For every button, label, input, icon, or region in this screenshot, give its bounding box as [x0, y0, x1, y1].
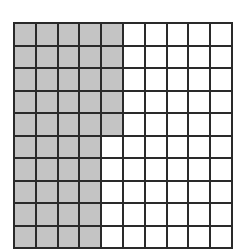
grid-cell-shaded [80, 159, 102, 182]
grid-cell-shaded [102, 24, 124, 47]
grid-cell-shaded [37, 159, 59, 182]
grid-cell-unshaded [124, 227, 146, 250]
grid-cell-shaded [80, 182, 102, 205]
grid-cell-unshaded [124, 159, 146, 182]
grid-cell-unshaded [168, 204, 190, 227]
grid-cell-shaded [80, 24, 102, 47]
grid-cell-shaded [59, 24, 81, 47]
grid-cell-unshaded [168, 137, 190, 160]
grid-cell-shaded [37, 204, 59, 227]
grid-cell-unshaded [146, 159, 168, 182]
grid-cell-shaded [37, 24, 59, 47]
grid-cell-unshaded [189, 182, 211, 205]
grid-cell-unshaded [189, 204, 211, 227]
grid-cell-unshaded [168, 182, 190, 205]
grid-cell-shaded [15, 182, 37, 205]
grid-cell-shaded [80, 204, 102, 227]
grid-cell-unshaded [168, 69, 190, 92]
grid-cell-shaded [15, 69, 37, 92]
grid-cell-shaded [15, 92, 37, 115]
grid-cell-unshaded [102, 159, 124, 182]
grid-cell-shaded [59, 227, 81, 250]
grid-cell-unshaded [146, 92, 168, 115]
grid-cell-shaded [102, 114, 124, 137]
grid-cell-unshaded [124, 24, 146, 47]
grid-cell-shaded [37, 137, 59, 160]
grid-cell-unshaded [146, 227, 168, 250]
grid-cell-unshaded [189, 227, 211, 250]
grid-cell-unshaded [124, 204, 146, 227]
grid-cell-unshaded [211, 182, 233, 205]
grid-cell-unshaded [189, 159, 211, 182]
grid-cell-unshaded [146, 24, 168, 47]
grid-cell-unshaded [146, 204, 168, 227]
grid-cell-unshaded [211, 204, 233, 227]
grid-cell-unshaded [168, 227, 190, 250]
grid-cell-unshaded [124, 92, 146, 115]
grid-cell-shaded [15, 114, 37, 137]
grid-cell-shaded [102, 92, 124, 115]
grid-cell-unshaded [168, 24, 190, 47]
grid-cell-unshaded [168, 114, 190, 137]
grid-cell-shaded [80, 114, 102, 137]
grid-cell-unshaded [211, 114, 233, 137]
grid-cell-shaded [59, 137, 81, 160]
grid-cell-unshaded [124, 114, 146, 137]
grid-cell-shaded [37, 114, 59, 137]
grid-cell-unshaded [189, 114, 211, 137]
grid-cell-unshaded [211, 69, 233, 92]
grid-cell-unshaded [146, 69, 168, 92]
grid-cell-unshaded [146, 114, 168, 137]
grid-cell-shaded [59, 114, 81, 137]
grid-cell-shaded [59, 204, 81, 227]
grid-cell-shaded [102, 47, 124, 70]
grid-cell-shaded [59, 182, 81, 205]
hundred-grid [13, 22, 233, 249]
grid-cell-unshaded [124, 69, 146, 92]
grid-cell-unshaded [146, 47, 168, 70]
grid-cell-shaded [37, 92, 59, 115]
grid-cell-unshaded [189, 92, 211, 115]
grid-cell-unshaded [189, 24, 211, 47]
grid-cell-shaded [59, 47, 81, 70]
grid-cell-shaded [80, 69, 102, 92]
grid-cell-unshaded [211, 227, 233, 250]
grid-cell-unshaded [189, 137, 211, 160]
grid-cell-unshaded [102, 137, 124, 160]
grid-cell-unshaded [146, 182, 168, 205]
grid-cell-unshaded [189, 69, 211, 92]
grid-cell-unshaded [146, 137, 168, 160]
grid-cell-unshaded [124, 182, 146, 205]
grid-cell-shaded [15, 204, 37, 227]
grid-cell-shaded [59, 69, 81, 92]
grid-cell-shaded [37, 227, 59, 250]
grid-cell-unshaded [168, 92, 190, 115]
grid-cell-shaded [102, 69, 124, 92]
grid-cell-unshaded [211, 92, 233, 115]
grid-cell-shaded [15, 137, 37, 160]
grid-cell-shaded [80, 92, 102, 115]
grid-cell-shaded [59, 92, 81, 115]
grid-cell-unshaded [102, 204, 124, 227]
grid-cell-unshaded [124, 137, 146, 160]
grid-cell-shaded [37, 47, 59, 70]
grid-cell-unshaded [211, 24, 233, 47]
grid-cell-shaded [80, 227, 102, 250]
grid-cell-unshaded [211, 159, 233, 182]
grid-cell-shaded [15, 159, 37, 182]
grid-cell-unshaded [124, 47, 146, 70]
grid-cell-shaded [59, 159, 81, 182]
grid-cell-unshaded [211, 137, 233, 160]
grid-cell-shaded [15, 24, 37, 47]
grid-cell-shaded [37, 69, 59, 92]
grid-cell-unshaded [102, 227, 124, 250]
grid-cell-unshaded [189, 47, 211, 70]
grid-cell-unshaded [168, 47, 190, 70]
grid-cell-unshaded [102, 182, 124, 205]
grid-cell-unshaded [211, 47, 233, 70]
grid-cell-shaded [15, 47, 37, 70]
grid-cell-shaded [37, 182, 59, 205]
grid-cell-shaded [80, 47, 102, 70]
grid-cell-shaded [15, 227, 37, 250]
grid-cell-shaded [80, 137, 102, 160]
